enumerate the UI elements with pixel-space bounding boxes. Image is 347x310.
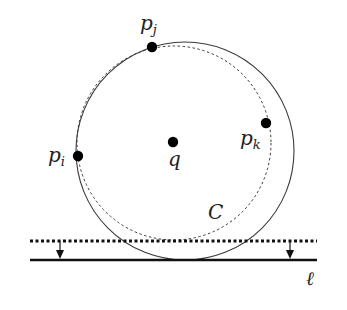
point-p_j [147, 42, 157, 52]
right-arrow-icon [286, 241, 294, 259]
arrows-group [56, 241, 294, 259]
label-p_j: pj [140, 11, 157, 37]
label-line-l: ℓ [306, 267, 314, 289]
label-p_i: pi [48, 143, 65, 169]
point-q [168, 137, 178, 147]
diagram-svg: pipjpkqCℓ [0, 0, 347, 310]
diagram-canvas: pipjpkqCℓ [0, 0, 347, 310]
label-q: q [168, 147, 181, 171]
label-circle-C: C [208, 200, 223, 224]
lines-group [30, 241, 317, 260]
left-arrow-icon [56, 241, 64, 259]
point-p_k [261, 118, 271, 128]
labels-group: pipjpkqCℓ [48, 11, 314, 289]
point-p_i [73, 151, 83, 161]
circles-group [76, 42, 294, 260]
solid-circle-C [76, 42, 294, 260]
label-p_k: pk [240, 126, 261, 152]
